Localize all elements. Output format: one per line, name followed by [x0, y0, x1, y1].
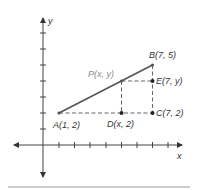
- label-a: A(1, 2): [52, 120, 80, 130]
- point-c: [151, 111, 155, 115]
- point-e: [151, 79, 155, 83]
- point-a: [57, 111, 60, 114]
- point-b: [151, 63, 154, 66]
- label-b: B(7, 5): [149, 50, 176, 60]
- point-d: [120, 111, 124, 115]
- y-axis-label: y: [47, 16, 53, 26]
- label-e: E(7, y): [156, 76, 183, 86]
- coordinate-diagram: y x B(7, 5) P(x, y) E(7, y) C(7, 2) A(1,…: [0, 0, 197, 190]
- label-c: C(7, 2): [156, 108, 184, 118]
- label-p: P(x, y): [88, 69, 114, 79]
- point-p: [120, 79, 123, 82]
- x-axis-label: x: [176, 151, 182, 161]
- label-d: D(x, 2): [107, 119, 134, 129]
